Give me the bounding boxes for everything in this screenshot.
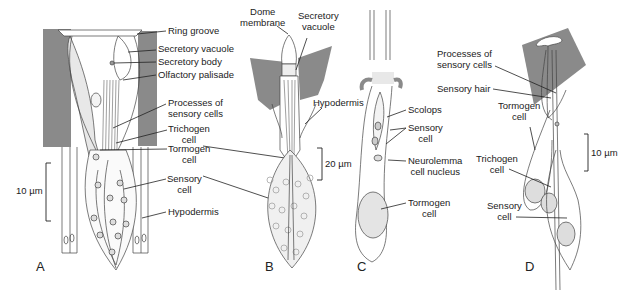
- label-trichogen-a: Trichogen cell: [168, 124, 210, 145]
- label-hypodermis-b: Hypodermis: [313, 98, 364, 109]
- panel-label-b: B: [265, 259, 274, 274]
- diagram-drawing: [0, 0, 629, 291]
- label-hypodermis-a: Hypodermis: [168, 207, 219, 218]
- scale-label-d: 10 µm: [591, 148, 618, 159]
- label-neurolemma-nucleus: Neurolemma cell nucleus: [408, 156, 462, 177]
- label-tormogen-c: Tormogen cell: [408, 198, 450, 219]
- label-secretory-vacuole-b: Secretory vacuole: [298, 11, 339, 32]
- panel-d-drawing: [522, 28, 586, 290]
- label-olfactory-palisade: Olfactory palisade: [158, 70, 234, 81]
- scale-bar-d: [584, 134, 588, 171]
- scale-bar-b: [317, 148, 322, 180]
- panel-label-c: C: [357, 259, 366, 274]
- scale-label-b: 20 µm: [325, 159, 352, 170]
- label-processes-sensory-a: Processes of sensory cells: [168, 98, 223, 119]
- label-sensory-d: Sensory cell: [487, 201, 522, 222]
- label-secretory-vacuole-a: Secretory vacuole: [158, 44, 234, 55]
- scale-label-a: 10 µm: [16, 186, 43, 197]
- panel-b-drawing: [250, 35, 332, 268]
- label-trichogen-d: Trichogen cell: [476, 154, 518, 175]
- panel-label-a: A: [36, 259, 45, 274]
- label-sensory-a: Sensory cell: [167, 174, 202, 195]
- label-dome-membrane: Dome membrane: [240, 7, 285, 28]
- label-secretory-body: Secretory body: [158, 57, 222, 68]
- scale-bar-a: [46, 163, 51, 221]
- label-tormogen-a: Tormogen cell: [168, 144, 210, 165]
- label-sensory-hair: Sensory hair: [437, 84, 490, 95]
- label-tormogen-d: Tormogen cell: [498, 101, 540, 122]
- label-scolops: Scolops: [408, 105, 442, 116]
- panel-label-d: D: [525, 259, 534, 274]
- label-ring-groove: Ring groove: [168, 26, 219, 37]
- label-sensory-c: Sensory cell: [408, 123, 443, 144]
- panel-c-drawing: [356, 10, 401, 262]
- label-processes-sensory-d: Processes of sensory cells: [437, 49, 492, 70]
